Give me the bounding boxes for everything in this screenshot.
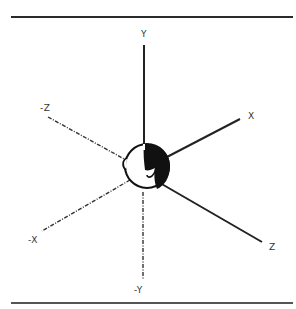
head-icon bbox=[123, 144, 170, 189]
x-axis-positive bbox=[165, 119, 240, 158]
bottom-rule bbox=[11, 302, 293, 304]
label-y: Y bbox=[141, 30, 147, 39]
label-z: Z bbox=[269, 243, 276, 252]
label-neg-z: -Z bbox=[40, 104, 50, 113]
label-x: X bbox=[248, 112, 255, 121]
label-neg-x: -X bbox=[28, 236, 38, 245]
axes-diagram bbox=[0, 0, 296, 309]
label-neg-y: -Y bbox=[134, 286, 143, 295]
z-axis-negative bbox=[48, 117, 126, 160]
x-axis-negative bbox=[42, 180, 130, 231]
z-axis-positive bbox=[160, 183, 262, 242]
